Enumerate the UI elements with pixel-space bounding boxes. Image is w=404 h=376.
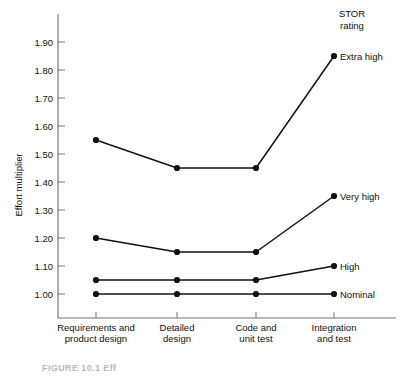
data-point bbox=[331, 53, 337, 59]
data-point bbox=[331, 291, 337, 297]
y-tick-label: 1.20 bbox=[35, 233, 54, 244]
y-tick-label: 1.40 bbox=[35, 177, 54, 188]
x-category-label: Detailed bbox=[160, 322, 195, 333]
series-label: High bbox=[340, 261, 360, 272]
series-label: Nominal bbox=[340, 289, 375, 300]
data-point bbox=[174, 249, 180, 255]
figure-caption: FIGURE 10.1 Eff bbox=[42, 363, 117, 376]
chart-series-group bbox=[93, 53, 337, 297]
data-point bbox=[93, 235, 99, 241]
x-category-label: unit test bbox=[239, 333, 273, 344]
data-point bbox=[331, 263, 337, 269]
data-point bbox=[174, 165, 180, 171]
series-label: Extra high bbox=[340, 51, 383, 62]
data-point bbox=[93, 277, 99, 283]
x-category-label: Code and bbox=[235, 322, 276, 333]
data-point bbox=[174, 277, 180, 283]
effort-multiplier-line-chart: 1.001.101.201.301.401.501.601.701.801.90… bbox=[0, 0, 404, 376]
y-tick-label: 1.90 bbox=[35, 37, 54, 48]
data-point bbox=[93, 137, 99, 143]
legend-title-line: STOR bbox=[339, 8, 365, 19]
x-category-label: and test bbox=[317, 333, 351, 344]
x-category-label: Integration bbox=[312, 322, 357, 333]
series-line bbox=[96, 56, 334, 168]
data-point bbox=[331, 193, 337, 199]
data-point bbox=[253, 291, 259, 297]
series-line bbox=[96, 266, 334, 280]
y-tick-label: 1.50 bbox=[35, 149, 54, 160]
x-axis-ticks bbox=[96, 312, 334, 318]
data-point bbox=[253, 165, 259, 171]
x-axis-category-labels: Requirements andproduct designDetailedde… bbox=[57, 322, 356, 344]
y-tick-label: 1.70 bbox=[35, 93, 54, 104]
x-category-label: Requirements and bbox=[57, 322, 135, 333]
x-category-label: design bbox=[163, 333, 191, 344]
x-category-label: product design bbox=[65, 333, 127, 344]
y-tick-label: 1.00 bbox=[35, 289, 54, 300]
y-axis-ticks: 1.001.101.201.301.401.501.601.701.801.90 bbox=[35, 37, 66, 300]
figure-container: 1.001.101.201.301.401.501.601.701.801.90… bbox=[0, 0, 404, 376]
y-tick-label: 1.80 bbox=[35, 65, 54, 76]
data-point bbox=[174, 291, 180, 297]
y-axis-title-text: Effort multiplier bbox=[13, 153, 24, 216]
y-tick-label: 1.60 bbox=[35, 121, 54, 132]
y-tick-label: 1.30 bbox=[35, 205, 54, 216]
series-line bbox=[96, 196, 334, 252]
y-axis-title: Effort multiplier bbox=[13, 153, 24, 216]
legend-title: STORrating bbox=[339, 8, 365, 31]
series-label: Very high bbox=[340, 191, 380, 202]
series-labels-group: Extra highVery highHighNominal bbox=[340, 51, 383, 300]
legend-title-line: rating bbox=[340, 20, 364, 31]
data-point bbox=[93, 291, 99, 297]
data-point bbox=[253, 277, 259, 283]
y-tick-label: 1.10 bbox=[35, 261, 54, 272]
data-point bbox=[253, 249, 259, 255]
